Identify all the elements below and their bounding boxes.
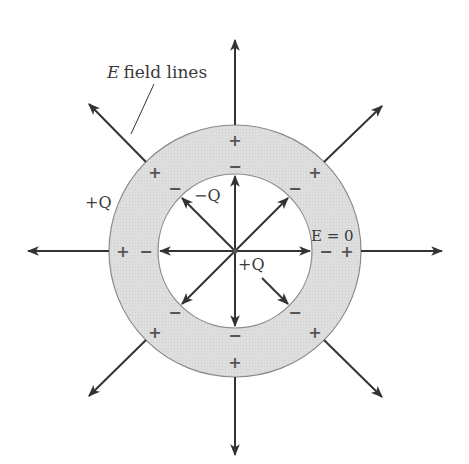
point-charge — [233, 249, 238, 254]
conducting-shell-diagram: Efield lines +Q −Q +Q E = 0 + + + + + + … — [0, 0, 469, 464]
svg-text:+: + — [148, 323, 161, 342]
svg-text:−: − — [168, 303, 181, 322]
svg-text:−: − — [228, 326, 241, 345]
inner-surface-charge-label: −Q — [194, 186, 221, 205]
svg-text:+: + — [228, 131, 241, 150]
svg-text:−: − — [288, 303, 301, 322]
svg-text:+: + — [228, 353, 241, 372]
field-lines-label: Efield lines — [106, 62, 207, 82]
svg-text:+: + — [308, 163, 321, 182]
svg-text:+: + — [116, 242, 129, 261]
svg-text:+: + — [148, 163, 161, 182]
svg-text:−: − — [168, 179, 181, 198]
svg-text:−: − — [319, 242, 332, 261]
svg-text:+: + — [340, 242, 353, 261]
svg-text:−: − — [139, 242, 152, 261]
svg-text:−: − — [228, 157, 241, 176]
label-pointer-line — [131, 84, 154, 134]
svg-text:−: − — [288, 179, 301, 198]
svg-text:+: + — [308, 323, 321, 342]
outer-charge-label: +Q — [85, 193, 112, 212]
center-charge-label: +Q — [238, 255, 265, 274]
